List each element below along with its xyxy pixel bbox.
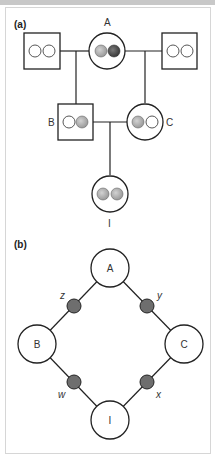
male-left-mate (24, 33, 60, 69)
panel-b-label: (b) (14, 239, 27, 250)
panel-a-label: (a) (14, 19, 26, 30)
svg-text:I: I (109, 415, 112, 426)
svg-text:C: C (180, 339, 187, 350)
pedigree-figure: (a) A B C (0, 0, 215, 458)
node-c: C (165, 325, 203, 363)
female-c (127, 104, 163, 140)
label-i: I (108, 218, 111, 229)
svg-text:B: B (34, 339, 41, 350)
label-c: C (166, 117, 173, 128)
female-i (92, 176, 128, 212)
label-z: z (59, 290, 65, 301)
male-b (58, 104, 93, 140)
label-a: A (104, 17, 111, 28)
label-w: w (58, 389, 66, 400)
node-a: A (91, 249, 129, 287)
female-a (89, 33, 125, 69)
svg-text:A: A (107, 263, 114, 274)
node-b: B (18, 325, 56, 363)
path-node-z (67, 299, 81, 313)
label-y: y (156, 290, 163, 301)
path-node-w (67, 375, 81, 389)
path-node-y (140, 299, 154, 313)
male-right-mate (162, 33, 197, 69)
label-b: B (48, 117, 55, 128)
node-i: I (91, 401, 129, 439)
label-x: x (155, 389, 162, 400)
path-node-x (140, 375, 154, 389)
